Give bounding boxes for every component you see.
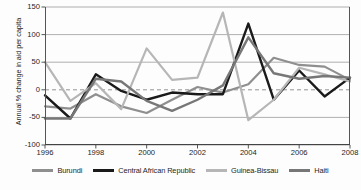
y-tick-label: 100 <box>27 29 40 38</box>
plot-area <box>40 6 345 144</box>
legend-item-guinea-bissau[interactable]: Guinea-Bissau <box>206 166 278 175</box>
y-tick-label: 150 <box>27 2 40 11</box>
plot-svg <box>40 6 352 150</box>
x-tick-label: 1996 <box>37 148 54 157</box>
legend-swatch-central-african-republic <box>93 169 114 172</box>
aid-per-capita-line-chart: Annual % change in aid per capita 150100… <box>0 0 361 190</box>
series-line-central-african-republic <box>45 24 350 119</box>
x-tick-label: 2004 <box>240 148 257 157</box>
legend-swatch-haiti <box>289 169 310 172</box>
legend-swatch-guinea-bissau <box>206 169 227 172</box>
chart-legend: BurundiCentral African RepublicGuinea-Bi… <box>0 166 361 175</box>
x-tick-label: 2002 <box>189 148 206 157</box>
y-axis-tick-labels: 150100500-50-100 <box>14 6 40 144</box>
y-tick-label: -50 <box>29 112 40 121</box>
x-tick-label: 2000 <box>138 148 155 157</box>
legend-label-haiti: Haiti <box>314 166 328 175</box>
legend-swatch-burundi <box>32 169 53 172</box>
legend-item-haiti[interactable]: Haiti <box>289 166 328 175</box>
legend-label-guinea-bissau: Guinea-Bissau <box>231 166 278 175</box>
y-tick-label: 50 <box>32 57 40 66</box>
x-tick-label: 2006 <box>291 148 308 157</box>
legend-label-burundi: Burundi <box>57 166 82 175</box>
legend-item-central-african-republic[interactable]: Central African Republic <box>93 166 195 175</box>
x-tick-label: 2008 <box>342 148 359 157</box>
x-tick-label: 1998 <box>87 148 104 157</box>
legend-label-central-african-republic: Central African Republic <box>118 166 195 175</box>
legend-item-burundi[interactable]: Burundi <box>32 166 82 175</box>
